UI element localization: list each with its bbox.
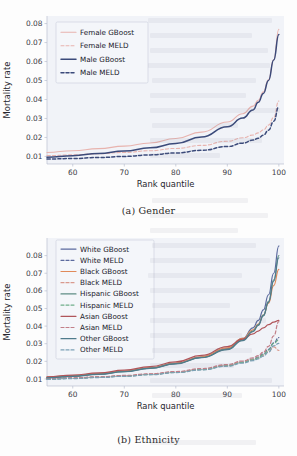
mortality-rate-chart-ethnicity: 0.010.020.030.040.050.060.070.0860708090… (0, 226, 297, 434)
x-axis-title: Rank quantile (137, 401, 195, 411)
x-tick-label: 80 (171, 168, 181, 177)
y-tick-label: 0.03 (26, 114, 43, 123)
caption-figure-a: (a) Gender (0, 205, 297, 216)
figure-page: 0.010.020.030.040.050.060.070.0860708090… (0, 0, 297, 456)
x-tick-label: 60 (68, 168, 78, 177)
legend-label: Other MELD (80, 345, 123, 354)
legend-label: White MELD (80, 256, 124, 265)
legend-label: Asian GBoost (80, 312, 128, 321)
y-tick-label: 0.08 (26, 19, 43, 28)
x-tick-label: 70 (120, 390, 130, 399)
legend-label: Hispanic GBoost (80, 289, 139, 298)
x-tick-label: 90 (223, 390, 233, 399)
figure-gender: 0.010.020.030.040.050.060.070.0860708090… (0, 0, 297, 228)
legend-label: Female GBoost (80, 28, 134, 37)
y-tick-label: 0.02 (26, 357, 42, 366)
y-tick-label: 0.04 (26, 322, 43, 331)
y-tick-label: 0.06 (26, 57, 43, 66)
legend-label: Black GBoost (80, 267, 128, 276)
y-tick-label: 0.01 (26, 152, 43, 161)
y-tick-label: 0.03 (26, 339, 43, 348)
y-tick-label: 0.07 (26, 269, 43, 278)
y-tick-label: 0.05 (26, 304, 43, 313)
x-tick-label: 80 (171, 390, 181, 399)
figure-ethnicity: 0.010.020.030.040.050.060.070.0860708090… (0, 226, 297, 456)
y-tick-label: 0.04 (26, 95, 43, 104)
y-axis-title: Mortality rate (2, 284, 12, 341)
x-tick-label: 100 (272, 390, 286, 399)
x-tick-label: 70 (120, 168, 130, 177)
legend-label: Male MELD (80, 68, 120, 77)
x-tick-label: 60 (68, 390, 78, 399)
y-tick-label: 0.01 (26, 375, 43, 384)
legend-label: Black MELD (80, 278, 122, 287)
x-tick-label: 100 (272, 168, 286, 177)
x-axis-title: Rank quantile (137, 179, 195, 189)
y-tick-label: 0.02 (26, 133, 42, 142)
y-axis-title: Mortality rate (2, 62, 12, 119)
legend-label: Male GBoost (80, 55, 125, 64)
chart-b-plot-area: 0.010.020.030.040.050.060.070.0860708090… (0, 226, 297, 434)
x-tick-label: 90 (223, 168, 233, 177)
legend-label: Female MELD (80, 41, 129, 50)
y-tick-label: 0.05 (26, 76, 43, 85)
legend-label: Other GBoost (80, 334, 129, 343)
mortality-rate-chart-gender: 0.010.020.030.040.050.060.070.0860708090… (0, 0, 297, 205)
chart-a-plot-area: 0.010.020.030.040.050.060.070.0860708090… (0, 0, 297, 205)
legend-label: Asian MELD (80, 323, 123, 332)
legend-label: White GBoost (80, 245, 129, 254)
y-tick-label: 0.06 (26, 286, 43, 295)
y-tick-label: 0.08 (26, 251, 43, 260)
legend-label: Hispanic MELD (80, 301, 134, 310)
y-tick-label: 0.07 (26, 38, 43, 47)
caption-figure-b: (b) Ethnicity (0, 434, 297, 445)
